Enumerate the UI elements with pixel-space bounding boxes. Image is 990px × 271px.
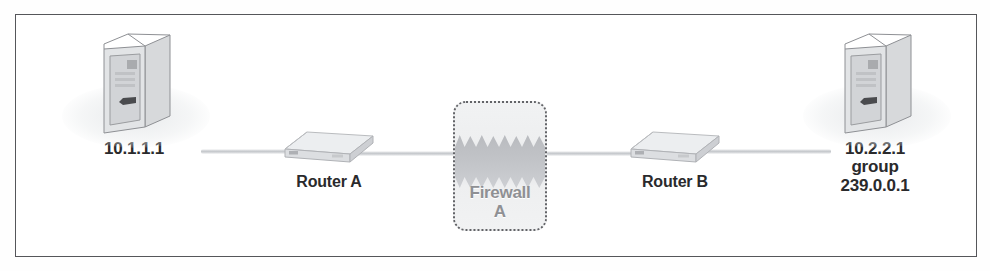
- node-host-right[interactable]: 10.2.2.1 group 239.0.0.1: [810, 32, 940, 195]
- firewall-name: Firewall: [455, 183, 545, 202]
- node-router-a[interactable]: Router A: [269, 130, 389, 190]
- node-host-left[interactable]: 10.1.1.1: [69, 32, 199, 158]
- host-right-group-word: group: [810, 158, 940, 176]
- firewall-label: Firewall A: [455, 183, 545, 221]
- node-firewall-a[interactable]: Firewall A: [453, 101, 547, 231]
- server-tower-icon: [96, 32, 172, 136]
- router-icon: [626, 130, 724, 170]
- firewall-id: A: [455, 202, 545, 221]
- router-a-label: Router A: [269, 173, 389, 190]
- router-icon: [280, 130, 378, 170]
- router-b-label: Router B: [615, 173, 735, 190]
- diagram-frame: 10.1.1.1: [15, 14, 977, 257]
- network-diagram-figure: 10.1.1.1: [0, 0, 990, 271]
- host-right-group-address: 239.0.0.1: [810, 177, 940, 195]
- server-tower-icon: [837, 32, 913, 136]
- diagram-canvas: 10.1.1.1: [16, 15, 976, 256]
- host-right-label: 10.2.2.1 group 239.0.0.1: [810, 140, 940, 195]
- node-router-b[interactable]: Router B: [615, 130, 735, 190]
- firewall-flames-icon: [455, 135, 545, 189]
